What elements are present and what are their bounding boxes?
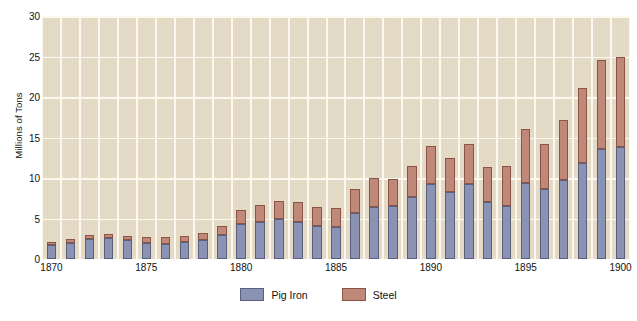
bar-segment-pig-iron[interactable] bbox=[142, 243, 151, 259]
bar-group[interactable] bbox=[293, 202, 302, 259]
bar-segment-pig-iron[interactable] bbox=[369, 207, 378, 259]
bar-group[interactable] bbox=[66, 239, 75, 259]
plot-area bbox=[42, 16, 630, 259]
bar-segment-pig-iron[interactable] bbox=[407, 197, 416, 259]
bar-group[interactable] bbox=[407, 166, 416, 259]
bar-segment-pig-iron[interactable] bbox=[350, 213, 359, 259]
bar-group[interactable] bbox=[559, 120, 568, 259]
bar-segment-steel[interactable] bbox=[388, 179, 397, 207]
bar-group[interactable] bbox=[540, 144, 549, 259]
bar-segment-steel[interactable] bbox=[293, 202, 302, 221]
bar-segment-steel[interactable] bbox=[369, 178, 378, 207]
bar-group[interactable] bbox=[369, 178, 378, 259]
bar-segment-steel[interactable] bbox=[180, 236, 189, 242]
bar-segment-pig-iron[interactable] bbox=[255, 222, 264, 259]
bar-segment-pig-iron[interactable] bbox=[597, 149, 606, 259]
bar-segment-pig-iron[interactable] bbox=[47, 245, 56, 259]
bar-group[interactable] bbox=[521, 129, 530, 259]
bar-segment-steel[interactable] bbox=[104, 234, 113, 238]
bar-segment-pig-iron[interactable] bbox=[540, 189, 549, 259]
bar-segment-pig-iron[interactable] bbox=[464, 184, 473, 259]
bar-segment-steel[interactable] bbox=[217, 226, 226, 235]
legend-label: Steel bbox=[373, 289, 397, 301]
bar-segment-steel[interactable] bbox=[274, 201, 283, 220]
bar-segment-steel[interactable] bbox=[616, 57, 625, 148]
bar-segment-pig-iron[interactable] bbox=[578, 163, 587, 259]
gridline-vertical bbox=[250, 16, 252, 259]
bar-segment-pig-iron[interactable] bbox=[217, 235, 226, 259]
bar-group[interactable] bbox=[388, 179, 397, 259]
bar-segment-steel[interactable] bbox=[559, 120, 568, 181]
bar-segment-pig-iron[interactable] bbox=[104, 238, 113, 259]
bar-group[interactable] bbox=[47, 242, 56, 259]
bar-segment-steel[interactable] bbox=[255, 205, 264, 222]
bar-segment-steel[interactable] bbox=[597, 60, 606, 149]
bar-group[interactable] bbox=[274, 201, 283, 259]
bar-segment-pig-iron[interactable] bbox=[388, 206, 397, 259]
x-tick-label: 1890 bbox=[420, 262, 442, 273]
bar-segment-pig-iron[interactable] bbox=[274, 219, 283, 259]
bar-group[interactable] bbox=[331, 208, 340, 259]
bar-segment-steel[interactable] bbox=[407, 166, 416, 198]
bar-segment-pig-iron[interactable] bbox=[483, 202, 492, 260]
bar-segment-pig-iron[interactable] bbox=[426, 184, 435, 259]
bar-group[interactable] bbox=[255, 205, 264, 259]
bar-group[interactable] bbox=[350, 189, 359, 259]
bar-segment-steel[interactable] bbox=[521, 129, 530, 182]
bar-group[interactable] bbox=[180, 236, 189, 259]
bar-segment-pig-iron[interactable] bbox=[236, 224, 245, 259]
bar-segment-pig-iron[interactable] bbox=[559, 180, 568, 259]
bar-segment-pig-iron[interactable] bbox=[616, 147, 625, 259]
bar-segment-pig-iron[interactable] bbox=[521, 183, 530, 259]
bar-segment-steel[interactable] bbox=[161, 237, 170, 243]
bar-segment-pig-iron[interactable] bbox=[293, 222, 302, 259]
bar-segment-steel[interactable] bbox=[350, 189, 359, 213]
bar-group[interactable] bbox=[198, 233, 207, 259]
bar-segment-pig-iron[interactable] bbox=[502, 206, 511, 259]
legend-item[interactable]: Steel bbox=[342, 288, 397, 301]
bar-segment-steel[interactable] bbox=[47, 242, 56, 245]
bar-segment-steel[interactable] bbox=[142, 237, 151, 243]
bar-segment-steel[interactable] bbox=[123, 236, 132, 240]
bar-segment-steel[interactable] bbox=[483, 167, 492, 202]
bar-segment-steel[interactable] bbox=[464, 144, 473, 185]
bar-segment-pig-iron[interactable] bbox=[85, 239, 94, 259]
gridline-vertical bbox=[439, 16, 441, 259]
bar-segment-steel[interactable] bbox=[426, 146, 435, 185]
bar-segment-pig-iron[interactable] bbox=[161, 244, 170, 259]
bar-group[interactable] bbox=[312, 207, 321, 259]
bar-segment-steel[interactable] bbox=[198, 233, 207, 240]
bar-group[interactable] bbox=[483, 167, 492, 259]
bar-segment-pig-iron[interactable] bbox=[445, 192, 454, 259]
bar-group[interactable] bbox=[426, 146, 435, 259]
bar-segment-steel[interactable] bbox=[331, 208, 340, 227]
bar-segment-steel[interactable] bbox=[445, 158, 454, 192]
bar-segment-pig-iron[interactable] bbox=[123, 240, 132, 259]
bar-group[interactable] bbox=[445, 158, 454, 259]
bar-segment-steel[interactable] bbox=[66, 239, 75, 243]
bar-segment-pig-iron[interactable] bbox=[180, 242, 189, 259]
bar-group[interactable] bbox=[616, 57, 625, 260]
bar-segment-steel[interactable] bbox=[578, 88, 587, 163]
bar-segment-steel[interactable] bbox=[236, 210, 245, 225]
bar-segment-pig-iron[interactable] bbox=[198, 240, 207, 259]
bar-segment-steel[interactable] bbox=[540, 144, 549, 189]
bar-group[interactable] bbox=[236, 210, 245, 259]
bar-group[interactable] bbox=[85, 235, 94, 259]
bar-group[interactable] bbox=[123, 236, 132, 259]
bar-group[interactable] bbox=[142, 237, 151, 259]
bar-segment-steel[interactable] bbox=[85, 235, 94, 239]
bar-group[interactable] bbox=[464, 144, 473, 259]
bar-segment-steel[interactable] bbox=[312, 207, 321, 226]
bar-segment-pig-iron[interactable] bbox=[331, 227, 340, 259]
bar-segment-pig-iron[interactable] bbox=[312, 226, 321, 259]
bar-group[interactable] bbox=[502, 166, 511, 259]
bar-group[interactable] bbox=[578, 88, 587, 259]
bar-segment-steel[interactable] bbox=[502, 166, 511, 206]
legend-item[interactable]: Pig Iron bbox=[240, 288, 307, 301]
bar-group[interactable] bbox=[597, 60, 606, 259]
bar-group[interactable] bbox=[104, 234, 113, 259]
bar-group[interactable] bbox=[161, 237, 170, 259]
bar-group[interactable] bbox=[217, 226, 226, 259]
bar-segment-pig-iron[interactable] bbox=[66, 243, 75, 259]
